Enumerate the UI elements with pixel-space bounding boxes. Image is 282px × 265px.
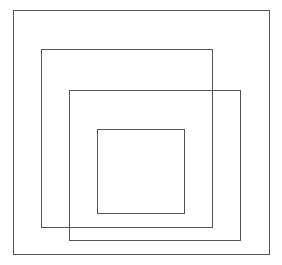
inner-square xyxy=(97,129,185,214)
diagram-canvas xyxy=(0,0,282,265)
